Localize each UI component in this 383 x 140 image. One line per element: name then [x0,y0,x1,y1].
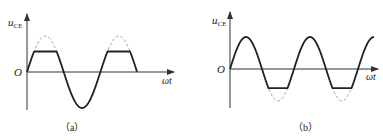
origin-label-a: O [14,66,22,78]
waveform-diagram: uCE O ωt （a） uCE O ωt （b） [0,0,383,140]
panel-b: uCE O ωt （b） [212,12,378,133]
y-label-a: uCE [8,16,22,30]
panel-a: uCE O ωt （a） [8,14,174,133]
clipped-wave-b [230,37,374,88]
x-label-a: ωt [162,75,172,86]
x-label-b: ωt [366,71,376,82]
caption-b: （b） [293,122,318,133]
caption-a: （a） [60,122,84,133]
origin-label-b: O [217,63,225,75]
y-label-b: uCE [212,14,226,28]
clipped-wave-a [27,51,137,108]
